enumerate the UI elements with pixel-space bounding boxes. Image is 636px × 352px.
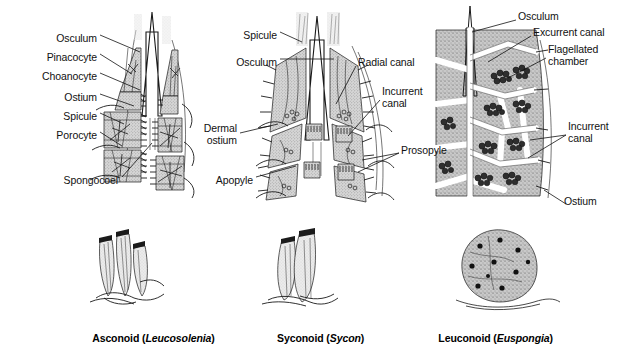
label-asconoid-choanocyte: Choanocyte bbox=[0, 71, 97, 83]
label-asconoid-spongocoel: Spongocoel bbox=[0, 175, 118, 187]
label-asconoid-osculum: Osculum bbox=[0, 33, 97, 45]
syconoid-water-flow-arrow bbox=[305, 16, 329, 176]
label-asconoid-spicule: Spicule bbox=[0, 111, 97, 123]
caption-asconoid-paren-close: ) bbox=[211, 332, 214, 344]
label-syconoid-radial-canal: Radial canal bbox=[358, 57, 438, 69]
caption-asconoid-type: Asconoid bbox=[92, 332, 139, 344]
label-syconoid-osculum: Osculum bbox=[190, 57, 277, 69]
syconoid-whole-organism bbox=[262, 228, 338, 306]
label-asconoid-porocyte: Porocyte bbox=[0, 130, 97, 142]
label-asconoid-pinacocyte: Pinacocyte bbox=[0, 52, 97, 64]
label-leuconoid-ostium: Ostium bbox=[564, 196, 624, 208]
caption-leuconoid-paren-close: ) bbox=[550, 332, 553, 344]
label-syconoid-incurrent-canal: Incurrent canal bbox=[382, 86, 442, 109]
caption-asconoid-genus: Leucosolenia bbox=[145, 332, 211, 344]
label-leuconoid-excurrent-canal: Excurrent canal bbox=[533, 27, 633, 39]
label-leuconoid-incurrent-canal: Incurrent canal bbox=[568, 121, 632, 144]
label-syconoid-dermal-ostium: Dermal ostium bbox=[175, 123, 237, 146]
label-syconoid-prosopyle: Prosopyle bbox=[401, 145, 467, 157]
leuconoid-whole-organism bbox=[456, 230, 560, 310]
asconoid-left-wall bbox=[90, 48, 147, 182]
caption-syconoid: Syconoid (Sycon) bbox=[225, 320, 405, 352]
label-syconoid-apopyle: Apopyle bbox=[190, 175, 253, 187]
caption-leuconoid-type: Leuconoid bbox=[438, 332, 490, 344]
label-leuconoid-osculum: Osculum bbox=[518, 11, 588, 23]
asconoid-cross-section bbox=[90, 12, 194, 198]
label-leuconoid-flagellated-chamber: Flagellated chamber bbox=[548, 44, 628, 67]
caption-asconoid: Asconoid (Leucosolenia) bbox=[48, 320, 248, 352]
caption-syconoid-genus: Sycon bbox=[330, 332, 361, 344]
caption-syconoid-paren-close: ) bbox=[361, 332, 364, 344]
asconoid-whole-organism bbox=[90, 229, 164, 304]
label-syconoid-spicule: Spicule bbox=[190, 30, 277, 42]
caption-syconoid-type: Syconoid bbox=[277, 332, 323, 344]
sponge-body-plan-figure: Osculum Pinacocyte Choanocyte Ostium Spi… bbox=[0, 0, 636, 352]
caption-leuconoid-genus: Euspongia bbox=[497, 332, 550, 344]
label-asconoid-ostium: Ostium bbox=[0, 92, 97, 104]
caption-leuconoid: Leuconoid (Euspongia) bbox=[400, 320, 580, 352]
